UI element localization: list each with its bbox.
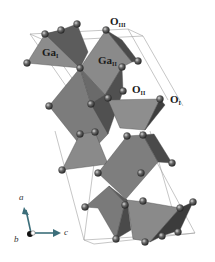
axis-indicator — [22, 207, 61, 237]
a-axis-arrow-icon — [22, 207, 29, 215]
axis-label-a: a — [19, 193, 24, 202]
label-o1: OI — [170, 94, 181, 106]
label-o2: OII — [132, 84, 145, 96]
c-axis-arrow-icon — [53, 229, 61, 237]
axis-label-b: b — [14, 235, 19, 244]
label-ga2: GaII — [98, 55, 117, 67]
crystal-structure-diagram — [0, 0, 215, 262]
label-o3: OIII — [110, 16, 126, 28]
label-ga1: GaI — [42, 47, 58, 59]
axis-label-c: c — [64, 228, 68, 237]
